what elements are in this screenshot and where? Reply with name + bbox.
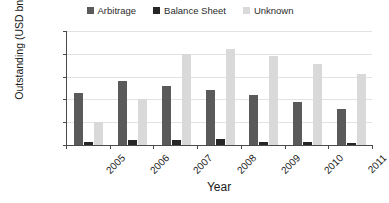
x-tick-mark — [153, 145, 154, 149]
x-tick-label-2007: 2007 — [192, 153, 215, 176]
x-tick-mark — [285, 145, 286, 149]
bar-group-2008 — [205, 31, 236, 145]
bar-unknown-2005 — [94, 122, 103, 145]
bar-unknown-2007 — [182, 54, 191, 145]
x-tick-mark — [328, 145, 329, 149]
chart-legend: Arbitrage Balance Sheet Unknown — [0, 6, 380, 16]
bar-arbitrage-2009 — [249, 95, 258, 145]
bar-arbitrage-2006 — [118, 81, 127, 145]
y-tick-mark — [63, 54, 67, 55]
y-tick-mark — [63, 31, 67, 32]
x-axis-line — [66, 145, 372, 146]
bar-balance-2010 — [303, 142, 312, 145]
x-tick-mark — [372, 145, 373, 149]
x-tick-mark — [197, 145, 198, 149]
bar-balance-2008 — [216, 139, 225, 145]
bar-balance-2006 — [128, 140, 137, 145]
bar-arbitrage-2011 — [337, 109, 346, 145]
x-tick-label-2010: 2010 — [323, 153, 346, 176]
bar-group-2011 — [336, 31, 367, 145]
bar-group-2006 — [117, 31, 148, 145]
x-tick-label-2006: 2006 — [148, 153, 171, 176]
bar-group-2010 — [292, 31, 323, 145]
legend-swatch-arbitrage — [87, 7, 94, 14]
bar-arbitrage-2010 — [293, 102, 302, 145]
legend-label-unknown: Unknown — [254, 6, 294, 16]
x-tick-mark — [66, 145, 67, 149]
bar-arbitrage-2007 — [162, 86, 171, 145]
bar-balance-2005 — [84, 142, 93, 145]
x-tick-mark — [241, 145, 242, 149]
bar-unknown-2010 — [313, 64, 322, 145]
bar-group-2009 — [248, 31, 279, 145]
bar-unknown-2006 — [138, 99, 147, 145]
legend-label-balance-sheet: Balance Sheet — [164, 6, 226, 16]
legend-label-arbitrage: Arbitrage — [98, 6, 137, 16]
x-tick-label-2011: 2011 — [366, 153, 388, 175]
y-tick-mark — [63, 122, 67, 123]
plot-area: 0200400600800100020052006200720082009201… — [66, 31, 372, 145]
y-axis-line — [66, 31, 67, 146]
legend-item-unknown: Unknown — [243, 6, 294, 16]
y-axis-title: Outstanding (USD bn) — [13, 0, 25, 113]
y-tick-mark — [63, 99, 67, 100]
bar-arbitrage-2008 — [206, 90, 215, 145]
x-axis-title: Year — [66, 180, 372, 194]
bar-balance-2007 — [172, 140, 181, 145]
bar-unknown-2011 — [357, 74, 366, 145]
x-tick-label-2009: 2009 — [279, 153, 302, 176]
bar-balance-2009 — [259, 142, 268, 145]
bar-unknown-2008 — [226, 49, 235, 145]
x-tick-mark — [110, 145, 111, 149]
x-tick-label-2008: 2008 — [236, 153, 259, 176]
bar-unknown-2009 — [269, 56, 278, 145]
bar-arbitrage-2005 — [74, 93, 83, 145]
bar-balance-2011 — [347, 143, 356, 145]
bar-group-2007 — [161, 31, 192, 145]
legend-swatch-balance-sheet — [153, 7, 160, 14]
y-tick-mark — [63, 77, 67, 78]
x-tick-label-2005: 2005 — [104, 153, 127, 176]
bar-group-2005 — [73, 31, 104, 145]
legend-item-balance-sheet: Balance Sheet — [153, 6, 226, 16]
legend-item-arbitrage: Arbitrage — [87, 6, 137, 16]
legend-swatch-unknown — [243, 7, 250, 14]
